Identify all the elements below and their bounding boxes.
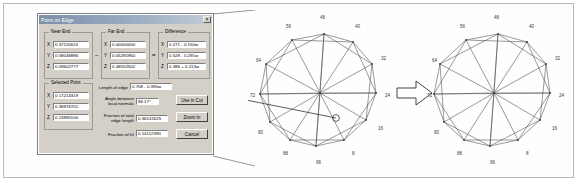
right-label-96: 96	[490, 160, 495, 165]
right-label-56: 56	[460, 24, 465, 29]
right-label-80: 80	[434, 130, 439, 135]
far-end-row-z: Z 0.48552502	[104, 63, 146, 70]
group-far-end-legend: Far End	[106, 29, 126, 34]
fraction-total-edge-field[interactable]: 0.36141625	[136, 115, 168, 122]
near-end-row-y: Y 0.58046886	[47, 52, 89, 59]
left-label-48: 48	[320, 15, 325, 20]
fraction-total-edge-label: Fraction of total edge length	[96, 113, 134, 123]
difference-axis-z: Z	[161, 64, 166, 69]
far-end-field-y[interactable]: 0.05281960	[110, 52, 146, 59]
far-end-field-z[interactable]: 0.48552502	[110, 63, 146, 70]
right-label-48: 48	[494, 15, 499, 20]
left-label-72: 72	[250, 93, 255, 98]
difference-field-z[interactable]: 0.386 + 0.213w	[167, 63, 206, 70]
selected-point-field-x[interactable]: 0.17214319	[53, 92, 89, 99]
difference-axis-y: Y	[161, 53, 166, 58]
near-end-field-x[interactable]: 0.37110624	[53, 41, 89, 48]
close-icon[interactable]: ×	[203, 16, 211, 23]
length-of-edge-field[interactable]: 0.708 - 0.390w	[130, 83, 172, 90]
left-label-8: 8	[352, 151, 355, 156]
far-end-row-x: X 0.00000000	[104, 41, 146, 48]
right-label-64: 64	[432, 58, 437, 63]
selected-point-row-z: Z 0.23890100	[47, 114, 89, 121]
far-end-axis-y: Y	[104, 53, 109, 58]
equals-operator: =	[152, 52, 156, 58]
near-end-row-z: Z 0.09602777	[47, 63, 89, 70]
selected-point-row-x: X 0.17214319	[47, 92, 89, 99]
fraction-lvl-label: Fraction of lvl	[96, 132, 134, 137]
left-mesh-diagram	[248, 14, 400, 172]
group-selected-point-legend: Selected Point	[49, 80, 83, 85]
right-label-40: 40	[529, 24, 534, 29]
selected-point-axis-z: Z	[47, 115, 52, 120]
angle-between-normals-field[interactable]: 86.17°	[136, 98, 159, 105]
left-label-40: 40	[355, 24, 360, 29]
far-end-axis-z: Z	[104, 64, 109, 69]
selected-point-field-y[interactable]: 0.38976701	[53, 103, 89, 110]
right-label-16: 16	[552, 126, 557, 131]
right-label-88: 88	[457, 151, 462, 156]
left-label-88: 88	[283, 151, 288, 156]
difference-row-z: Z 0.386 + 0.213w	[161, 63, 206, 70]
difference-axis-x: X	[161, 42, 166, 47]
right-label-72: 72	[427, 93, 432, 98]
screenshot-root: Point on Edge × Near End X 0.37110624 Y …	[0, 0, 579, 183]
zoom-in-button[interactable]: Zoom In	[176, 112, 208, 122]
selected-point-row-y: Y 0.38976701	[47, 103, 89, 110]
left-label-32: 32	[381, 56, 386, 61]
near-end-axis-y: Y	[47, 53, 52, 58]
selected-point-field-z[interactable]: 0.23890100	[53, 114, 89, 121]
selected-point-axis-x: X	[47, 93, 52, 98]
right-label-32: 32	[555, 56, 560, 61]
near-end-axis-x: X	[47, 42, 52, 47]
far-end-row-y: Y 0.05281960	[104, 52, 146, 59]
minus-operator: −	[95, 52, 99, 58]
near-end-row-x: X 0.37110624	[47, 41, 89, 48]
point-on-edge-dialog: Point on Edge × Near End X 0.37110624 Y …	[37, 13, 214, 155]
cancel-button[interactable]: Cancel	[176, 129, 208, 139]
difference-field-x[interactable]: 0.271 - 0.150w	[167, 41, 206, 48]
near-end-axis-z: Z	[47, 64, 52, 69]
fraction-lvl-field[interactable]: 0.14112390	[136, 130, 168, 137]
right-mesh-diagram	[433, 14, 571, 172]
right-label-8: 8	[526, 151, 529, 156]
difference-field-y[interactable]: 0.528 - 0.291w	[167, 52, 206, 59]
left-label-80: 80	[258, 130, 263, 135]
dialog-title: Point on Edge	[40, 17, 203, 23]
left-label-56: 56	[286, 24, 291, 29]
dialog-body: Near End X 0.37110624 Y 0.58046886 Z 0.0…	[38, 25, 213, 156]
length-of-edge-label: Length of edge	[96, 85, 128, 90]
left-label-24: 24	[385, 93, 390, 98]
use-in-cut-button[interactable]: Use in Cut	[176, 95, 208, 105]
left-label-96: 96	[316, 160, 321, 165]
angle-between-normals-label: Angle between local normals	[96, 96, 134, 106]
far-end-field-x[interactable]: 0.00000000	[110, 41, 146, 48]
selected-point-axis-y: Y	[47, 104, 52, 109]
difference-row-y: Y 0.528 - 0.291w	[161, 52, 206, 59]
near-end-field-z[interactable]: 0.09602777	[53, 63, 89, 70]
left-label-16: 16	[378, 126, 383, 131]
dialog-titlebar[interactable]: Point on Edge ×	[39, 15, 212, 24]
group-difference-legend: Difference	[163, 29, 188, 34]
right-label-24: 24	[559, 93, 564, 98]
far-end-axis-x: X	[104, 42, 109, 47]
left-label-64: 64	[256, 58, 261, 63]
near-end-field-y[interactable]: 0.58046886	[53, 52, 89, 59]
difference-row-x: X 0.271 - 0.150w	[161, 41, 206, 48]
group-near-end-legend: Near End	[49, 29, 72, 34]
